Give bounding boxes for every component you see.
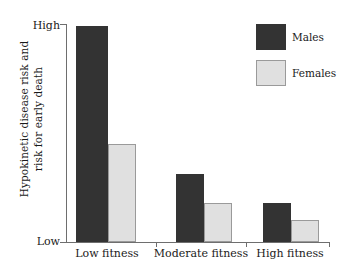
bar-males-high-fitness [263, 203, 291, 242]
legend-entry-males: Males [256, 24, 340, 50]
bar-males-moderate-fitness [176, 174, 204, 242]
legend-entry-females: Females [256, 60, 340, 86]
y-axis-tick-label-high: High [26, 20, 60, 31]
x-axis-category-label-moderate-fitness: Moderate fitness [152, 247, 250, 260]
bar-females-low-fitness [108, 144, 136, 242]
bar-group-low-fitness [66, 24, 156, 242]
bar-females-high-fitness [291, 220, 319, 242]
legend: Males Females [256, 24, 340, 96]
x-axis-line [66, 242, 330, 243]
bar-chart: Hypokinetic disease risk and risk for ea… [0, 0, 340, 270]
y-axis-title: Hypokinetic disease risk and risk for ea… [17, 19, 47, 219]
bar-males-low-fitness [76, 26, 108, 242]
x-axis-category-label-high-fitness: High fitness [248, 247, 332, 260]
bar-group-moderate-fitness [156, 24, 246, 242]
bar-females-moderate-fitness [204, 203, 232, 242]
legend-swatch-females-icon [256, 60, 286, 86]
legend-label-females: Females [292, 68, 336, 79]
y-axis-tick-low [60, 242, 67, 243]
y-axis-tick-label-low: Low [26, 236, 60, 247]
legend-swatch-males-icon [256, 24, 286, 50]
legend-label-males: Males [292, 32, 324, 43]
x-axis-category-label-low-fitness: Low fitness [62, 247, 152, 260]
